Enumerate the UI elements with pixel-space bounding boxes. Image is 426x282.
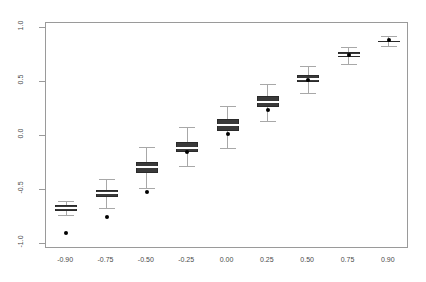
y-axis-tick-label: 0.0 [17, 122, 24, 146]
truth-point [105, 215, 109, 219]
plot-frame [45, 22, 408, 248]
boxplot-group [297, 23, 319, 247]
whisker-cap-lower [300, 93, 316, 94]
x-axis-tick-label: 0.25 [247, 256, 287, 263]
whisker-cap-upper [260, 84, 276, 85]
x-axis-tick-label: -0.90 [45, 256, 85, 263]
whisker-cap-upper [179, 127, 195, 128]
y-axis-tick-label: 1.0 [17, 14, 24, 38]
truth-point [266, 108, 270, 112]
whisker-upper [146, 147, 147, 162]
whisker-cap-upper [99, 179, 115, 180]
whisker-cap-lower [58, 215, 74, 216]
whisker-cap-upper [139, 147, 155, 148]
whisker-cap-upper [58, 201, 74, 202]
whisker-lower [187, 152, 188, 166]
truth-point [145, 190, 149, 194]
whisker-cap-lower [179, 166, 195, 167]
median-line [217, 124, 239, 126]
boxplot-group [257, 23, 279, 247]
truth-point [185, 150, 189, 154]
median-line [96, 192, 118, 194]
whisker-upper [308, 66, 309, 75]
whisker-cap-lower [139, 188, 155, 189]
whisker-cap-upper [220, 106, 236, 107]
whisker-cap-lower [341, 64, 357, 65]
y-axis-tick-label: -0.5 [17, 175, 24, 199]
boxplot-group [378, 23, 400, 247]
boxplot-group [136, 23, 158, 247]
median-line [257, 101, 279, 103]
boxplot-group [176, 23, 198, 247]
x-axis-tick-label: 0.90 [368, 256, 408, 263]
whisker-cap-upper [300, 66, 316, 67]
x-axis-tick-label: 0.00 [207, 256, 247, 263]
whisker-cap-lower [220, 148, 236, 149]
boxplot-group [338, 23, 360, 247]
x-axis-tick-label: -0.75 [86, 256, 126, 263]
whisker-lower [106, 197, 107, 208]
x-axis-tick-label: -0.50 [126, 256, 166, 263]
median-line [55, 207, 77, 209]
whisker-lower [308, 82, 309, 93]
whisker-cap-lower [260, 121, 276, 122]
whisker-cap-upper [341, 47, 357, 48]
boxplot-group [217, 23, 239, 247]
whisker-cap-lower [99, 208, 115, 209]
truth-point [226, 132, 230, 136]
whisker-upper [267, 84, 268, 96]
plot-area [46, 23, 407, 247]
whisker-upper [227, 106, 228, 119]
truth-point [347, 53, 351, 57]
chart-canvas: 1.00.50.0-0.5-1.0 -0.90-0.75-0.50-0.250.… [0, 0, 426, 282]
boxplot-group [96, 23, 118, 247]
y-axis-tick-label: -1.0 [17, 229, 24, 253]
boxplot-group [55, 23, 77, 247]
truth-point [64, 231, 68, 235]
x-axis-tick-label: 0.75 [328, 256, 368, 263]
whisker-cap-upper [381, 36, 397, 37]
whisker-lower [146, 173, 147, 188]
x-axis-tick-label: -0.25 [166, 256, 206, 263]
whisker-upper [106, 179, 107, 190]
y-axis-tick-label: 0.5 [17, 68, 24, 92]
median-line [176, 147, 198, 149]
whisker-cap-lower [381, 46, 397, 47]
x-axis-tick-label: 0.50 [287, 256, 327, 263]
median-line [136, 166, 158, 168]
whisker-upper [187, 127, 188, 142]
